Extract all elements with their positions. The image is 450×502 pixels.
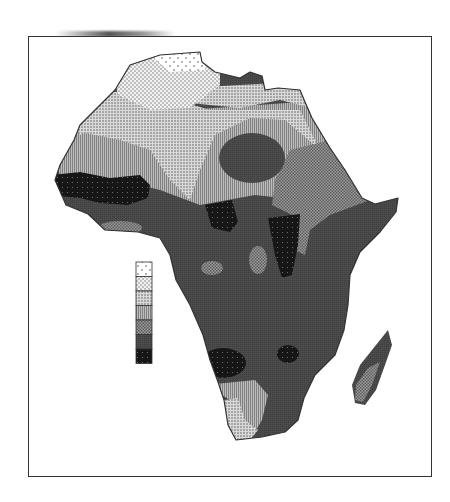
legend-swatch-3: [136, 291, 152, 306]
legend-swatch-6: [136, 335, 152, 350]
legend-swatch-1: [136, 262, 152, 277]
madagascar: [352, 330, 392, 405]
legend-swatch-7: [136, 349, 152, 364]
legend-swatch-5: [136, 320, 152, 335]
legend-swatch-2: [136, 277, 152, 292]
legend: [136, 262, 152, 364]
legend-swatch-4: [136, 306, 152, 321]
africa-map: [0, 0, 450, 502]
africa-mainland: [0, 0, 450, 502]
